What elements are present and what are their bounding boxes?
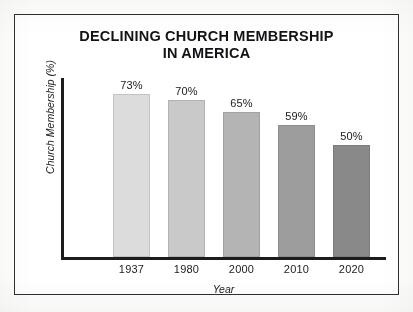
x-axis-title: Year [61,283,386,295]
bar-1980[interactable] [168,100,205,257]
bar-2020[interactable] [333,145,370,257]
y-axis-title: Church Membership (%) [44,22,56,212]
x-axis-tick-labels: 19371980200020102020 [64,263,389,279]
bar-slot: 73% [104,78,159,257]
x-tick-label-2020: 2020 [324,263,379,275]
bar-2000[interactable] [223,112,260,257]
bar-value-label-1980: 70% [159,85,214,97]
bar-value-label-2000: 65% [214,97,269,109]
bar-value-label-1937: 73% [104,79,159,91]
bar-slot: 65% [214,78,269,257]
chart-frame: DECLINING CHURCH MEMBERSHIP IN AMERICA C… [14,14,399,295]
bar-value-label-2010: 59% [269,110,324,122]
x-axis-line [61,257,386,260]
chart-page: DECLINING CHURCH MEMBERSHIP IN AMERICA C… [0,0,413,312]
bar-2010[interactable] [278,125,315,257]
bar-slot: 70% [159,78,214,257]
bar-1937[interactable] [113,94,150,257]
bar-slot: 50% [324,78,379,257]
chart-title-line-1: DECLINING CHURCH MEMBERSHIP [79,28,333,44]
x-tick-label-2010: 2010 [269,263,324,275]
chart-title-line-2: IN AMERICA [15,45,398,62]
plot-area: 73%70%65%59%50% [61,78,386,260]
x-tick-label-1937: 1937 [104,263,159,275]
bar-value-label-2020: 50% [324,130,379,142]
x-tick-label-1980: 1980 [159,263,214,275]
bar-series: 73%70%65%59%50% [64,78,386,257]
chart-title: DECLINING CHURCH MEMBERSHIP IN AMERICA [15,28,398,62]
x-tick-label-2000: 2000 [214,263,269,275]
bar-slot: 59% [269,78,324,257]
